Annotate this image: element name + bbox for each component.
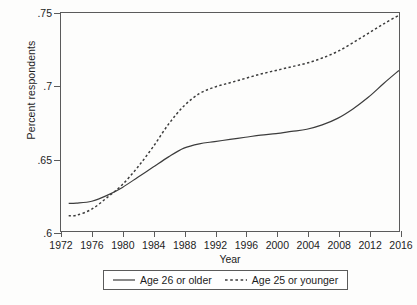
x-axis-tick (246, 231, 247, 237)
x-axis-tick (123, 231, 124, 237)
y-axis-tick (54, 86, 61, 87)
x-axis-tick-label: 1988 (173, 239, 196, 251)
x-axis-tick-label: 2012 (358, 239, 381, 251)
y-axis-tick-label: .7 (43, 80, 52, 92)
x-axis-tick-label: 2016 (389, 239, 412, 251)
y-axis-tick (54, 13, 61, 14)
x-axis-tick (370, 231, 371, 237)
x-axis-tick (92, 231, 93, 237)
x-axis-tick-label: 2008 (327, 239, 350, 251)
legend-entry[interactable]: Age 26 or older (113, 274, 212, 286)
series-line-1 (69, 70, 399, 203)
x-axis-tick-label: 2000 (266, 239, 289, 251)
legend: Age 26 or olderAge 25 or younger (103, 270, 348, 290)
y-axis-tick-label: .75 (37, 7, 52, 19)
x-axis-title: Year (60, 253, 400, 265)
series-canvas (61, 13, 399, 231)
x-axis-tick (339, 231, 340, 237)
x-axis-tick-label: 1992 (204, 239, 227, 251)
x-axis-tick (216, 231, 217, 237)
legend-entry[interactable]: Age 25 or younger (225, 274, 338, 286)
y-axis-tick-label: .6 (43, 227, 52, 239)
x-axis-tick (308, 231, 309, 237)
x-axis-tick (277, 231, 278, 237)
x-axis-tick (185, 231, 186, 237)
dashed-line-icon (225, 277, 247, 283)
x-axis-tick-label: 1980 (111, 239, 134, 251)
solid-line-icon (113, 277, 135, 283)
x-axis-tick-label: 2004 (297, 239, 320, 251)
legend-label: Age 26 or older (140, 274, 212, 286)
x-axis-tick-label: 1976 (80, 239, 103, 251)
x-axis-tick-label: 1996 (235, 239, 258, 251)
y-axis-tick-label: .65 (37, 154, 52, 166)
x-axis-tick (61, 231, 62, 237)
series-line-2 (69, 15, 399, 216)
x-axis-tick (401, 231, 402, 237)
x-axis-tick-label: 1984 (142, 239, 165, 251)
y-axis-title: Percent respondents (25, 10, 37, 170)
y-axis-tick (54, 233, 61, 234)
chart-figure: Percent respondents .75.7.65.61972197619… (0, 0, 417, 305)
x-axis-tick (154, 231, 155, 237)
y-axis-tick (54, 160, 61, 161)
plot-area: .75.7.65.6197219761980198419881992199620… (60, 12, 400, 232)
legend-label: Age 25 or younger (252, 274, 338, 286)
x-axis-tick-label: 1972 (49, 239, 72, 251)
